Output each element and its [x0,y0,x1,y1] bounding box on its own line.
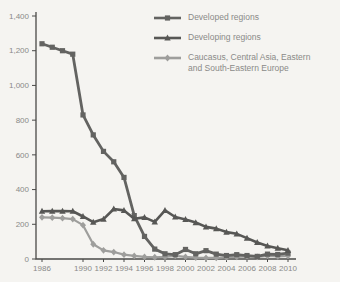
legend-label: Caucasus, Central Asia, Eastern and Sout… [188,52,322,74]
series-line [42,209,288,250]
y-tick-label: 400 [16,185,30,194]
x-tick-label: 2000 [177,264,195,273]
x-tick-label: 2006 [238,264,256,273]
y-tick-label: 1,400 [9,12,30,21]
legend-label: Developed regions [188,12,259,23]
x-tick-label: 1994 [115,264,133,273]
x-tick-label: 1986 [33,264,51,273]
chart-figure: 02004006008001,0001,2001,400198619901992… [0,0,340,282]
y-tick-label: 200 [16,220,30,229]
legend-item-caucasus-central-asia: Caucasus, Central Asia, Eastern and Sout… [154,52,322,74]
x-tick-label: 1998 [156,264,174,273]
x-tick-label: 2004 [218,264,236,273]
y-tick-label: 800 [16,116,30,125]
y-tick-label: 1,200 [9,46,30,55]
legend-item-developed-regions: Developed regions [154,12,322,23]
series-line [42,44,288,257]
x-tick-label: 2008 [259,264,277,273]
y-tick-label: 0 [25,255,30,264]
series-developing-regions [39,206,291,253]
legend-marker-triangle-icon [154,33,181,43]
y-tick-label: 600 [16,151,30,160]
x-tick-label: 1992 [95,264,113,273]
legend-marker-square-icon [154,13,181,23]
x-tick-label: 1996 [136,264,154,273]
legend-marker-diamond-icon [154,53,181,63]
x-tick-label: 2002 [197,264,215,273]
chart-legend: Developed regions Developing regions Cau… [154,12,322,74]
x-tick-label: 1990 [74,264,92,273]
legend-item-developing-regions: Developing regions [154,32,322,43]
legend-label: Developing regions [188,32,261,43]
x-tick-label: 2010 [279,264,297,273]
y-tick-label: 1,000 [9,81,30,90]
